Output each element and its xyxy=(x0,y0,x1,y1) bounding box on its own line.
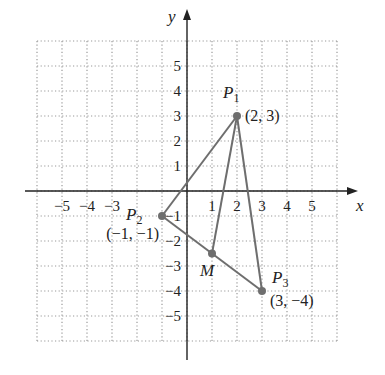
x-tick-label: 4 xyxy=(283,198,291,214)
y-tick-label: 1 xyxy=(174,158,182,174)
x-tick-label: 3 xyxy=(258,198,266,214)
x-tick-label: 2 xyxy=(233,198,241,214)
x-tick-label: 5 xyxy=(308,198,316,214)
point-P1-marker xyxy=(233,112,241,120)
x-tick-label: −5 xyxy=(54,198,70,214)
point-P3-marker xyxy=(258,287,266,295)
point-M-label: M xyxy=(199,261,215,280)
y-tick-label: −5 xyxy=(165,308,181,324)
x-axis-label: x xyxy=(355,196,364,215)
y-tick-label: −4 xyxy=(165,283,181,299)
x-axis-arrow-icon xyxy=(347,187,358,195)
point-subscript: 1 xyxy=(233,91,239,105)
y-tick-label: 5 xyxy=(174,58,182,74)
point-P2-label: P2 xyxy=(125,205,142,227)
y-axis-label: y xyxy=(166,7,176,26)
x-tick-label: −4 xyxy=(79,198,95,214)
point-P1-coordinates: (2, 3) xyxy=(245,107,280,125)
point-M-marker xyxy=(208,250,216,258)
point-P2-marker xyxy=(158,212,166,220)
y-tick-label: 3 xyxy=(174,108,182,124)
y-tick-label: −3 xyxy=(165,258,181,274)
point-P1-label: P1 xyxy=(222,83,239,105)
point-P2-coordinates: (−1, −1) xyxy=(106,225,159,243)
coordinate-plane: −5−4−31234554321−1−2−3−4−5 P1(2, 3)P2(−1… xyxy=(0,0,385,375)
segment-P1-M xyxy=(212,116,237,254)
x-tick-label: −3 xyxy=(104,198,120,214)
point-subscript: 3 xyxy=(282,276,288,290)
y-tick-label: 2 xyxy=(174,133,182,149)
y-tick-label: −2 xyxy=(165,233,181,249)
point-P3-coordinates: (3, −4) xyxy=(270,292,314,310)
y-tick-label: 4 xyxy=(174,83,182,99)
y-axis-arrow-icon xyxy=(183,9,191,20)
point-P3-label: P3 xyxy=(271,268,288,290)
x-tick-label: 1 xyxy=(208,198,216,214)
